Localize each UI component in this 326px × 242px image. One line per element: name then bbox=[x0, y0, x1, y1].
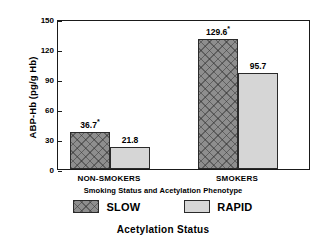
bar-value-number: 95.7 bbox=[250, 61, 267, 71]
y-tick-label: 60 bbox=[45, 106, 54, 116]
tick-mark bbox=[58, 141, 62, 142]
y-tick-label: 90 bbox=[45, 76, 54, 86]
bar-value-number: 36.7 bbox=[80, 120, 97, 130]
legend-label: RAPID bbox=[217, 201, 252, 213]
legend: SLOW RAPID bbox=[0, 200, 326, 213]
category-label-smokers: SMOKERS bbox=[216, 174, 258, 183]
bar-smokers-slow[interactable]: 129.6* bbox=[198, 39, 238, 169]
bar-value-label: 36.7* bbox=[80, 120, 99, 130]
bar-value-label: 21.8 bbox=[122, 135, 139, 145]
y-tick-label: 150 bbox=[41, 16, 54, 26]
tick-mark bbox=[58, 171, 62, 172]
tick-mark bbox=[58, 81, 62, 82]
significance-marker: * bbox=[227, 26, 230, 33]
plot-area: 150 120 90 60 30 0 36.7* bbox=[57, 20, 310, 170]
tick-mark bbox=[58, 21, 62, 22]
bar-nonsmokers-slow[interactable]: 36.7* bbox=[70, 132, 110, 169]
chart-title: Acetylation Status bbox=[0, 224, 326, 235]
bar-value-number: 21.8 bbox=[122, 135, 139, 145]
y-tick-label: 30 bbox=[45, 136, 54, 146]
significance-marker: * bbox=[97, 118, 100, 125]
legend-swatch-icon bbox=[73, 200, 99, 213]
bar-chart-figure: ABP-Hb (pg/g Hb) 150 120 90 60 30 0 bbox=[0, 0, 326, 242]
bar-value-number: 129.6 bbox=[206, 27, 227, 37]
category-label-non-smokers: NON-SMOKERS bbox=[77, 174, 140, 183]
y-tick-label: 120 bbox=[41, 46, 54, 56]
tick-mark bbox=[58, 111, 62, 112]
legend-entry-slow[interactable]: SLOW bbox=[73, 200, 140, 213]
y-tick-label: 0 bbox=[50, 166, 54, 176]
legend-swatch-icon bbox=[184, 200, 210, 213]
legend-entry-rapid[interactable]: RAPID bbox=[184, 200, 252, 213]
bar-value-label: 129.6* bbox=[206, 27, 230, 37]
x-axis-title: Smoking Status and Acetylation Phenotype bbox=[0, 186, 326, 195]
bar-value-label: 95.7 bbox=[250, 61, 267, 71]
legend-label: SLOW bbox=[106, 201, 140, 213]
y-axis-title: ABP-Hb (pg/g Hb) bbox=[27, 18, 38, 178]
bar-smokers-rapid[interactable]: 95.7 bbox=[238, 73, 278, 169]
tick-mark bbox=[58, 51, 62, 52]
bar-nonsmokers-rapid[interactable]: 21.8 bbox=[110, 147, 150, 169]
